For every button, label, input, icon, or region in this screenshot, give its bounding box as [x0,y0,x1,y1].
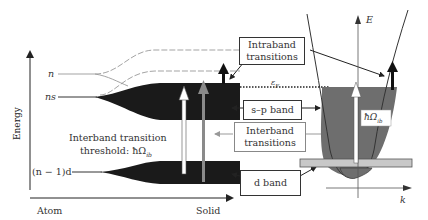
threshold-arrow [179,86,189,174]
intraband-arrow-left [218,63,229,84]
level-n-label: n [48,68,54,79]
threshold-subscript: ib [146,151,152,158]
atom-solid-axis [30,194,234,202]
omega-subscript: ib [377,118,382,124]
fermi-subscript: F [275,83,279,89]
parabola-plot [300,10,412,198]
level-ns-label: ns [45,91,56,102]
energy-axis-label: Energy [12,107,22,140]
d-band-box: d band [240,170,301,196]
intraband-line1: Intraband [248,39,296,51]
threshold-text: threshold: ħΩ [80,145,146,156]
fermi-level-label: εF [271,77,279,92]
band-diagram [0,0,428,220]
threshold-label-line1: Interband transition [69,132,167,143]
interband-line1: Interband [246,125,294,137]
atom-label: Atom [37,205,62,216]
threshold-label-line2: threshold: ħΩib [80,145,152,160]
sp-band-box: s–p band [243,100,302,120]
interband-line2: transitions [244,137,296,149]
solid-label: Solid [196,205,220,216]
intraband-line2: transitions [246,51,298,63]
d-band-text: d band [254,177,287,189]
k-axis-label: k [400,194,406,205]
d-band-shape [100,161,240,184]
level-d-label: (n − 1)d [32,166,72,177]
interband-transitions-box: Interband transitions [234,122,306,152]
sp-band-shape [95,83,240,120]
intraband-transitions-box: Intraband transitions [239,37,305,65]
e-axis-label: E [366,14,373,25]
omega-symbol: ħΩ [364,112,377,122]
sp-band-text: s–p band [251,104,294,116]
parabola-omega-label: ħΩib [364,112,383,127]
